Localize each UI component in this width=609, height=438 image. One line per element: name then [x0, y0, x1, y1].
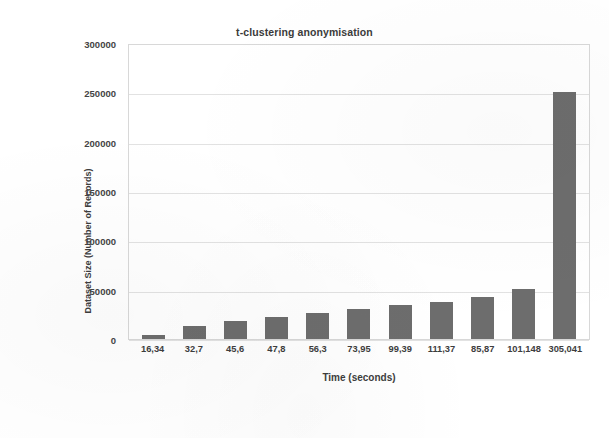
x-tick-label: 111,37: [421, 344, 461, 360]
bar-series: [129, 45, 589, 339]
chart-title: t-clustering anonymisation: [0, 26, 609, 38]
y-tick-label: 250000: [84, 88, 116, 99]
y-tick-label: 150000: [84, 187, 116, 198]
x-tick-label: 16,34: [133, 344, 173, 360]
x-tick-label: 305,041: [545, 344, 585, 360]
bar: [553, 92, 576, 339]
bar: [142, 335, 165, 339]
y-tick-label: 300000: [84, 39, 116, 50]
x-tick-label: 32,7: [174, 344, 214, 360]
y-tick-label: 100000: [84, 236, 116, 247]
y-tick-label: 50000: [90, 285, 116, 296]
x-tick-label: 101,148: [504, 344, 544, 360]
bar: [265, 317, 288, 339]
x-axis: 16,3432,745,647,856,373,9599,39111,3785,…: [128, 344, 590, 360]
x-tick-label: 85,87: [463, 344, 503, 360]
x-tick-label: 56,3: [298, 344, 338, 360]
y-tick-label: 200000: [84, 137, 116, 148]
bar: [224, 321, 247, 339]
y-axis: Dataset Size (Number of Records) 300000 …: [52, 44, 122, 340]
y-tick-label: 0: [111, 335, 116, 346]
x-axis-label: Time (seconds): [128, 372, 590, 383]
bar: [306, 313, 329, 339]
bar-chart-figure: t-clustering anonymisation Dataset Size …: [0, 0, 609, 438]
bar: [389, 305, 412, 339]
bar: [183, 326, 206, 339]
x-tick-label: 45,6: [215, 344, 255, 360]
gridline: [129, 340, 589, 341]
plot-area: [128, 44, 590, 340]
bar: [347, 309, 370, 339]
x-tick-label: 47,8: [256, 344, 296, 360]
bar: [471, 297, 494, 339]
bar: [512, 289, 535, 339]
x-tick-label: 73,95: [339, 344, 379, 360]
bar: [430, 302, 453, 339]
x-tick-label: 99,39: [380, 344, 420, 360]
